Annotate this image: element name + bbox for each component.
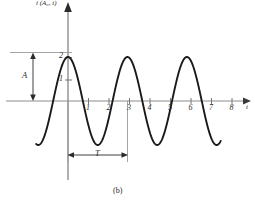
y-tick-label-2: 2: [59, 51, 63, 60]
y-tick-label-1: 1: [59, 74, 63, 83]
x-tick-label-2: 2: [107, 103, 111, 112]
figure-caption: (b): [113, 186, 122, 195]
x-tick-label-5: 5: [168, 103, 172, 112]
amplitude-arrow-head-down: [30, 95, 36, 102]
x-axis-label: t: [246, 103, 248, 111]
waveform-plot: [0, 0, 255, 203]
x-tick-label-8: 8: [230, 103, 234, 112]
waveform-figure: i (A₀, t) t 2 1 1 2 3 4 5 6 7 8 A T (b): [0, 0, 255, 203]
x-tick-label-1: 1: [86, 103, 90, 112]
period-arrow-head-right: [122, 152, 129, 158]
x-tick-label-3: 3: [127, 103, 131, 112]
amplitude-label: A: [22, 70, 27, 80]
period-label: T: [95, 148, 100, 158]
y-axis-arrowhead: [64, 2, 72, 12]
y-axis-label: i (A₀, t): [36, 0, 57, 7]
amplitude-arrow-head-up: [30, 53, 36, 60]
x-tick-label-6: 6: [189, 103, 193, 112]
x-tick-label-4: 4: [148, 103, 152, 112]
x-tick-label-7: 7: [209, 103, 213, 112]
